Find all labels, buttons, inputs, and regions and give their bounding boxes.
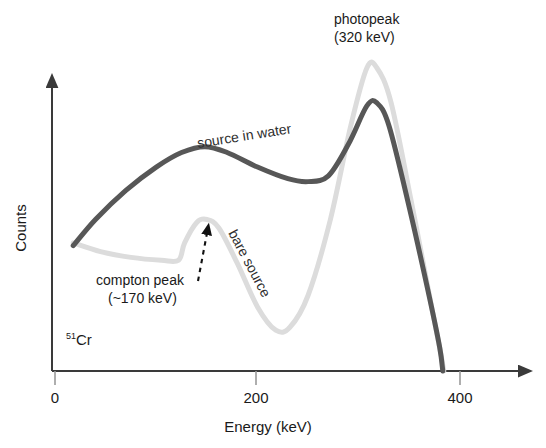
x-tick-label-200: 200 bbox=[243, 389, 268, 406]
isotope-label: 51Cr bbox=[66, 331, 92, 348]
isotope-superscript: 51 bbox=[66, 331, 76, 341]
annotations-group: photopeak (320 keV) compton peak (~170 k… bbox=[66, 11, 400, 348]
compton-peak-arrow bbox=[198, 233, 207, 281]
x-tick-label-400: 400 bbox=[447, 389, 472, 406]
y-axis-title: Counts bbox=[12, 204, 29, 252]
series-group bbox=[73, 62, 444, 371]
curve-label-source-in-water: source in water bbox=[196, 120, 293, 151]
photopeak-annotation-line2: (320 keV) bbox=[334, 29, 395, 45]
chart-canvas: photopeak (320 keV) compton peak (~170 k… bbox=[0, 0, 546, 448]
isotope-symbol: Cr bbox=[76, 331, 92, 348]
curve-bare-source bbox=[73, 62, 444, 371]
x-axis-title: Energy (keV) bbox=[224, 418, 312, 435]
x-tick-label-0: 0 bbox=[51, 389, 59, 406]
compton-peak-annotation-line2: (~170 keV) bbox=[108, 290, 177, 306]
compton-peak-annotation-line1: compton peak bbox=[96, 272, 185, 288]
photopeak-annotation-line1: photopeak bbox=[334, 11, 400, 27]
spectrum-chart: photopeak (320 keV) compton peak (~170 k… bbox=[0, 0, 546, 448]
